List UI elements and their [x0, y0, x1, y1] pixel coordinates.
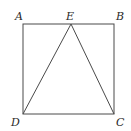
square-abcd: [23, 24, 114, 114]
segment-ec: [71, 24, 114, 114]
label-b: B: [115, 10, 124, 23]
geometry-diagram: A E B C D: [0, 0, 131, 131]
label-a: A: [14, 10, 23, 23]
label-d: D: [10, 116, 20, 129]
label-e: E: [65, 10, 74, 23]
segment-ed: [23, 24, 71, 114]
label-c: C: [116, 116, 125, 129]
